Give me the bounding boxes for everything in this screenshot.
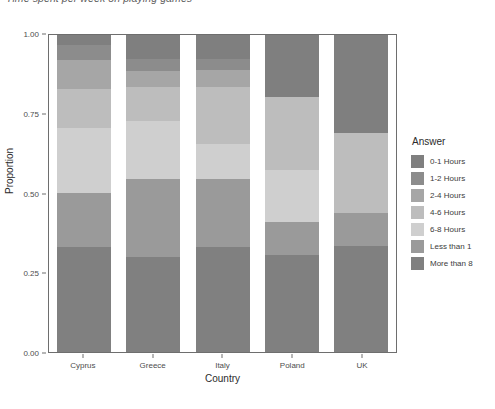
bar-segment[interactable]: [196, 179, 250, 247]
x-tick-mark: [152, 354, 153, 358]
stacked-bar[interactable]: [57, 35, 111, 352]
legend-swatch-icon: [411, 172, 424, 185]
bar-segment[interactable]: [265, 255, 319, 352]
bar-segment[interactable]: [57, 193, 111, 247]
x-tick-label: Greece: [118, 361, 188, 370]
stacked-bar[interactable]: [126, 35, 180, 352]
chart-title: Time spent per week on playing games: [6, 0, 192, 4]
plot-panel: [48, 34, 397, 353]
bar-slot-greece: [118, 35, 187, 352]
bar-segment[interactable]: [196, 144, 250, 179]
legend-items: 0-1 Hours1-2 Hours2-4 Hours4-6 Hours6-8 …: [411, 153, 473, 271]
legend-swatch-icon: [411, 240, 424, 253]
x-tick-label: Italy: [188, 361, 258, 370]
bar-segment[interactable]: [334, 246, 388, 352]
legend-label: 1-2 Hours: [430, 174, 465, 183]
y-tick-label: 0.50: [23, 189, 39, 198]
bar-segment[interactable]: [126, 71, 180, 87]
bar-segment[interactable]: [126, 121, 180, 180]
y-tick-label: 0.75: [23, 109, 39, 118]
legend-swatch-icon: [411, 155, 424, 168]
y-tick-mark: [42, 353, 46, 354]
bar-segment[interactable]: [126, 87, 180, 120]
y-tick-label: 0.00: [23, 349, 39, 358]
legend-item[interactable]: 0-1 Hours: [411, 153, 473, 169]
legend-swatch-icon: [411, 189, 424, 202]
bar-segment[interactable]: [334, 35, 388, 133]
x-tick-label: Cyprus: [48, 361, 118, 370]
legend-label: 6-8 Hours: [430, 225, 465, 234]
x-tick-label: UK: [327, 361, 397, 370]
legend-item[interactable]: 4-6 Hours: [411, 204, 473, 220]
legend-item[interactable]: 1-2 Hours: [411, 170, 473, 186]
stacked-bar[interactable]: [196, 35, 250, 352]
bar-segment[interactable]: [57, 45, 111, 61]
y-tick-mark: [42, 193, 46, 194]
bar-slot-uk: [327, 35, 396, 352]
bar-segment[interactable]: [126, 257, 180, 352]
y-tick-label: 0.25: [23, 269, 39, 278]
y-tick-mark: [42, 113, 46, 114]
y-axis-title: Proportion: [4, 148, 15, 194]
bar-segment[interactable]: [265, 97, 319, 170]
bar-segment[interactable]: [196, 59, 250, 70]
bar-segment[interactable]: [196, 70, 250, 87]
bar-segment[interactable]: [265, 35, 319, 97]
bar-segment[interactable]: [126, 35, 180, 59]
bar-segment[interactable]: [57, 128, 111, 193]
legend-label: More than 8: [430, 259, 473, 268]
legend-title: Answer: [412, 136, 473, 147]
x-tick-mark: [292, 354, 293, 358]
bar-segment[interactable]: [196, 247, 250, 352]
bar-slot-poland: [257, 35, 326, 352]
legend-label: 0-1 Hours: [430, 157, 465, 166]
legend-swatch-icon: [411, 257, 424, 270]
stacked-bar[interactable]: [265, 35, 319, 352]
legend-item[interactable]: 2-4 Hours: [411, 187, 473, 203]
y-tick-mark: [42, 273, 46, 274]
bar-segment[interactable]: [57, 60, 111, 89]
bar-segment[interactable]: [126, 179, 180, 257]
stacked-bars-group: [49, 35, 396, 352]
legend-item[interactable]: Less than 1: [411, 238, 473, 254]
legend-label: 2-4 Hours: [430, 191, 465, 200]
bar-segment[interactable]: [57, 247, 111, 352]
bar-segment[interactable]: [196, 87, 250, 144]
legend-item[interactable]: 6-8 Hours: [411, 221, 473, 237]
legend-swatch-icon: [411, 206, 424, 219]
bar-segment[interactable]: [334, 133, 388, 212]
bar-segment[interactable]: [196, 35, 250, 59]
x-tick-mark: [222, 354, 223, 358]
legend-label: 4-6 Hours: [430, 208, 465, 217]
bar-slot-cyprus: [49, 35, 118, 352]
x-tick-mark: [82, 354, 83, 358]
y-tick-mark: [42, 34, 46, 35]
bar-segment[interactable]: [334, 213, 388, 246]
bar-segment[interactable]: [57, 89, 111, 129]
bar-segment[interactable]: [265, 170, 319, 222]
legend: Answer 0-1 Hours1-2 Hours2-4 Hours4-6 Ho…: [411, 136, 473, 272]
bar-segment[interactable]: [265, 222, 319, 255]
bar-slot-italy: [188, 35, 257, 352]
legend-item[interactable]: More than 8: [411, 255, 473, 271]
y-tick-label: 1.00: [23, 30, 39, 39]
bar-segment[interactable]: [126, 59, 180, 72]
bar-segment[interactable]: [57, 35, 111, 45]
legend-label: Less than 1: [430, 242, 471, 251]
legend-swatch-icon: [411, 223, 424, 236]
x-tick-mark: [362, 354, 363, 358]
stacked-bar[interactable]: [334, 35, 388, 352]
x-axis-title: Country: [48, 373, 397, 384]
x-tick-label: Poland: [257, 361, 327, 370]
